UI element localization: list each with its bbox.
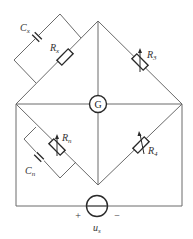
label-r3: R3 xyxy=(146,49,157,62)
resistor-rx-icon xyxy=(57,49,73,65)
label-us: us xyxy=(93,222,101,235)
label-cn: Cn xyxy=(25,165,36,178)
source-minus-sign: − xyxy=(114,210,120,221)
label-rn: Rn xyxy=(61,132,72,145)
bridge-circuit-diagram: Cx Rx R3 G Rn Cn R4 xyxy=(0,0,193,239)
capacitor-cn-icon xyxy=(33,151,45,163)
variable-resistor-r3-icon xyxy=(132,48,148,72)
variable-resistor-r4-icon xyxy=(133,131,149,154)
galvanometer-icon: G xyxy=(90,96,107,113)
source-plus-sign: + xyxy=(75,210,81,221)
label-rx: Rx xyxy=(49,42,60,55)
voltage-source-icon xyxy=(87,196,108,217)
label-r4: R4 xyxy=(147,145,158,158)
label-cx: Cx xyxy=(20,22,31,35)
svg-text:G: G xyxy=(94,99,101,110)
